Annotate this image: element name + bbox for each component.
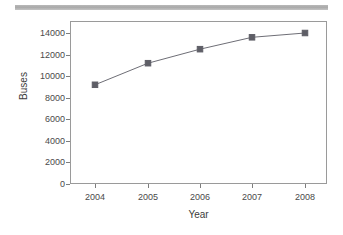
xtick-label-2008: 2008 xyxy=(285,193,325,202)
xtick-label-2004: 2004 xyxy=(75,193,115,202)
xtick-mark-2004 xyxy=(95,184,96,188)
plot-frame xyxy=(70,21,327,184)
chart-page: 0 2000 4000 6000 8000 10000 12000 14000 … xyxy=(0,0,343,235)
ytick-mark-0 xyxy=(66,184,70,185)
y-axis-title-text: Buses xyxy=(18,56,29,116)
ytick-label-0: 0 xyxy=(19,180,65,189)
ytick-label-6000: 6000 xyxy=(19,115,65,124)
ytick-mark-12000 xyxy=(66,55,70,56)
ytick-mark-6000 xyxy=(66,119,70,120)
ytick-mark-4000 xyxy=(66,141,70,142)
ytick-label-2000: 2000 xyxy=(19,158,65,167)
x-axis-title: Year xyxy=(70,209,327,220)
ytick-mark-10000 xyxy=(66,76,70,77)
xtick-label-2005: 2005 xyxy=(128,193,168,202)
xtick-label-2007: 2007 xyxy=(232,193,272,202)
xtick-mark-2006 xyxy=(200,184,201,188)
xtick-mark-2007 xyxy=(252,184,253,188)
xtick-mark-2008 xyxy=(305,184,306,188)
ytick-mark-8000 xyxy=(66,98,70,99)
xtick-mark-2005 xyxy=(148,184,149,188)
ytick-label-14000: 14000 xyxy=(19,29,65,38)
ytick-mark-14000 xyxy=(66,33,70,34)
y-axis-title: Buses xyxy=(10,26,21,86)
ytick-mark-2000 xyxy=(66,162,70,163)
line-chart: 0 2000 4000 6000 8000 10000 12000 14000 … xyxy=(0,0,343,235)
ytick-label-4000: 4000 xyxy=(19,137,65,146)
xtick-label-2006: 2006 xyxy=(180,193,220,202)
